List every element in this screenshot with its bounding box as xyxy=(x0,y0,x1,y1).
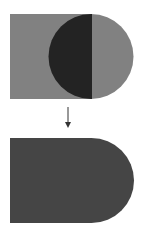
arrow-down-icon xyxy=(65,107,71,128)
union-result-shape xyxy=(10,138,134,223)
input-shapes xyxy=(10,14,134,99)
union-diagram xyxy=(0,0,149,234)
